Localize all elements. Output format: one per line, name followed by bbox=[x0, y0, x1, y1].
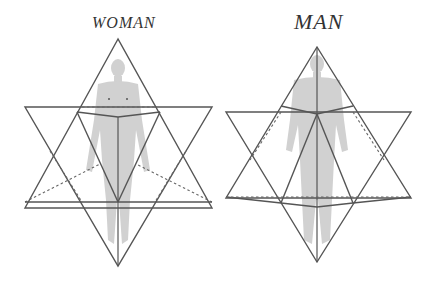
man-diagram bbox=[226, 47, 411, 262]
woman-diagram bbox=[25, 39, 212, 266]
star-tetrahedron-diagram bbox=[0, 0, 429, 288]
